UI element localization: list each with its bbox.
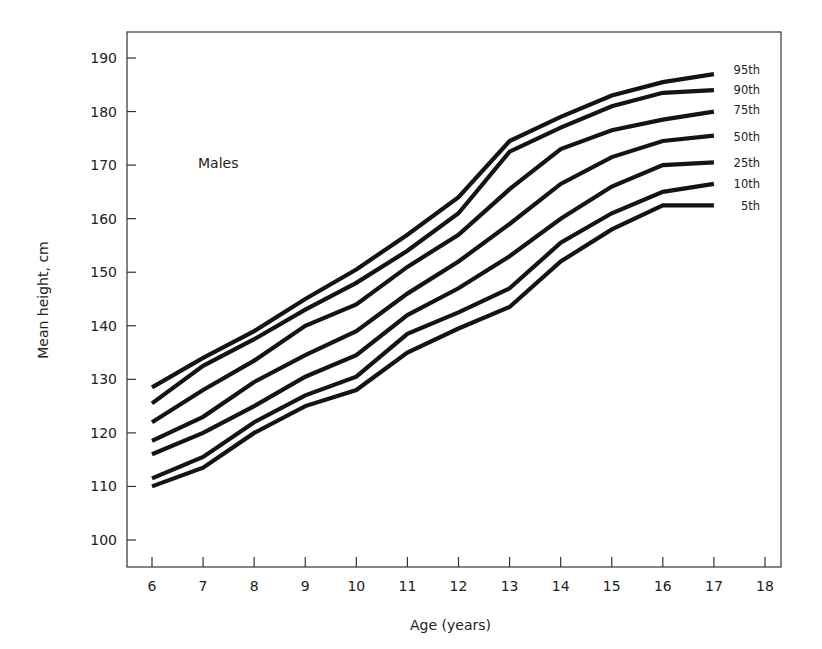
- y-axis-title: Mean height, cm: [35, 241, 51, 358]
- x-tick-label: 9: [301, 578, 310, 594]
- y-tick-label: 190: [90, 50, 117, 66]
- y-tick-label: 140: [90, 318, 117, 334]
- y-tick-label: 120: [90, 425, 117, 441]
- label-50th: 50th: [734, 130, 760, 144]
- x-tick-label: 6: [148, 578, 157, 594]
- y-tick-label: 180: [90, 104, 117, 120]
- y-tick-label: 160: [90, 211, 117, 227]
- label-10th: 10th: [734, 177, 760, 191]
- x-tick-label: 8: [250, 578, 259, 594]
- percentile-labels: 95th90th75th50th25th10th5th: [734, 63, 760, 213]
- x-tick-label: 7: [199, 578, 208, 594]
- plot-frame: [127, 32, 781, 567]
- x-tick-label: 16: [654, 578, 672, 594]
- y-tick-label: 170: [90, 157, 117, 173]
- growth-percentile-chart: 100110120130140150160170180190 678910111…: [0, 0, 822, 649]
- line-10th-percentile: [152, 184, 714, 479]
- x-tick-label: 17: [705, 578, 723, 594]
- percentile-lines: [152, 74, 714, 486]
- y-axis: 100110120130140150160170180190: [90, 50, 136, 548]
- line-90th-percentile: [152, 90, 714, 403]
- line-5th-percentile: [152, 205, 714, 486]
- x-tick-label: 12: [450, 578, 468, 594]
- y-tick-label: 150: [90, 264, 117, 280]
- label-5th: 5th: [741, 199, 760, 213]
- x-tick-label: 13: [501, 578, 519, 594]
- y-tick-label: 130: [90, 371, 117, 387]
- label-90th: 90th: [734, 83, 760, 97]
- x-tick-label: 11: [399, 578, 417, 594]
- x-axis: 6789101112131415161718: [148, 557, 774, 594]
- label-95th: 95th: [734, 63, 760, 77]
- x-tick-label: 18: [756, 578, 774, 594]
- line-50th-percentile: [152, 136, 714, 441]
- y-tick-label: 100: [90, 532, 117, 548]
- x-tick-label: 10: [347, 578, 365, 594]
- x-axis-title: Age (years): [410, 617, 491, 633]
- label-75th: 75th: [734, 103, 760, 117]
- x-tick-label: 14: [552, 578, 570, 594]
- males-annotation: Males: [198, 155, 238, 171]
- label-25th: 25th: [734, 156, 760, 170]
- y-tick-label: 110: [90, 478, 117, 494]
- x-tick-label: 15: [603, 578, 621, 594]
